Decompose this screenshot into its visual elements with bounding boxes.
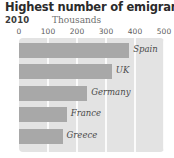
bar-uk (19, 64, 112, 79)
bar-row: France (19, 107, 164, 122)
x-tick-400: 400 (128, 27, 142, 36)
x-tick-500: 500 (157, 27, 171, 36)
bar-row: Greece (19, 129, 164, 144)
bar-row: Germany (19, 86, 164, 101)
bar-row: Spain (19, 43, 164, 58)
bar-label-france: France (71, 108, 101, 118)
bar-label-spain: Spain (133, 44, 158, 54)
bar-spain (19, 43, 129, 58)
bar-label-greece: Greece (67, 130, 98, 140)
bar-row: UK (19, 64, 164, 79)
plot-area: SpainUKGermanyFranceGreece (19, 38, 164, 152)
bar-germany (19, 86, 87, 101)
x-tick-300: 300 (99, 27, 113, 36)
chart-figure: Highest number of emigrants 2010 Thousan… (0, 0, 174, 158)
x-axis-unit-label: Thousands (52, 15, 101, 25)
bar-greece (19, 129, 63, 144)
bar-label-uk: UK (116, 65, 130, 75)
chart-title: Highest number of emigrants (5, 0, 173, 14)
x-tick-0: 0 (17, 27, 22, 36)
chart-subtitle-year: 2010 (5, 15, 29, 25)
bars-group: SpainUKGermanyFranceGreece (19, 38, 164, 152)
bar-france (19, 107, 67, 122)
bar-label-germany: Germany (91, 87, 130, 97)
x-tick-100: 100 (41, 27, 55, 36)
x-tick-200: 200 (70, 27, 84, 36)
